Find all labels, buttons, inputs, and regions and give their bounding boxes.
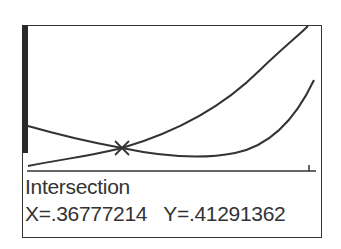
intersection-label: Intersection xyxy=(25,176,130,198)
x-value: X=.36777214 xyxy=(25,202,147,225)
curve-second xyxy=(28,80,314,157)
coordinates-readout: X=.36777214Y=.41291362 xyxy=(25,203,302,225)
y-value: Y=.41291362 xyxy=(163,202,285,225)
curve-increasing xyxy=(28,26,308,166)
